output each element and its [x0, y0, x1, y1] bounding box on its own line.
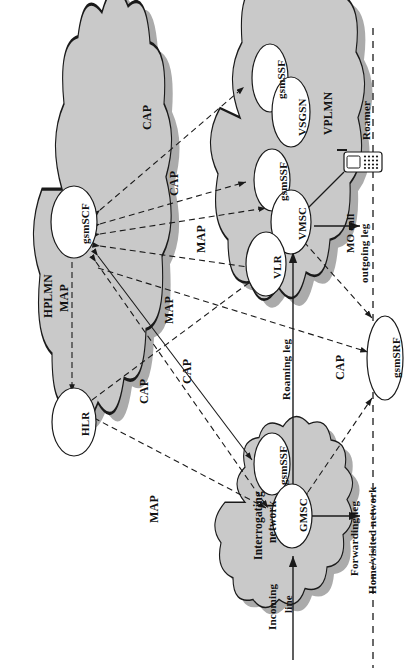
link-map-hlr-gmsc	[94, 418, 266, 508]
leg-label-mo-call-line2: outgoing leg	[358, 223, 370, 283]
link-label-map-centre: MAP	[162, 296, 177, 324]
leg-label-incoming-line2: line	[282, 595, 294, 613]
annotation-roamer: Roamer	[360, 101, 372, 140]
cloud-label-hplmn: HPLMN	[42, 274, 54, 318]
leg-label-mo-call-line1: MO call	[344, 213, 356, 253]
mobile-phone-icon	[337, 150, 382, 172]
link-label-cap-centre: CAP	[137, 379, 152, 404]
leg-label-forwarding: Forwarding leg	[348, 501, 360, 576]
node-label-gsmsrf: gsmSRF	[390, 337, 402, 378]
cloud-label-interrogating-network-line2: network	[266, 501, 278, 543]
node-label-gsmssf-vmsc: gsmSSF	[277, 162, 289, 201]
node-label-gsmssf-gmsc: gsmSSF	[277, 446, 289, 485]
annotation-home-visited-network: Home/visited network	[366, 486, 378, 594]
node-label-gsmscf: gsmSCF	[79, 203, 91, 244]
link-label-map-gsmscf-hlr: MAP	[57, 284, 72, 312]
link-label-cap-vsgsn: CAP	[140, 105, 155, 130]
link-label-cap-gsmsrf: CAP	[333, 355, 348, 380]
leg-label-roaming: Roaming leg	[280, 339, 292, 400]
node-label-vlr: VLR	[271, 255, 283, 279]
link-label-map-hlr-gmsc: MAP	[147, 495, 162, 523]
cloud-label-vplmn: VPLMN	[322, 92, 334, 135]
node-label-gsmssf-vsgsn: gsmSSF	[275, 60, 287, 99]
diagram-canvas: gsmSSF VSGSN gsmSSF VMSC VLR gsmSCF HLR …	[0, 0, 415, 671]
node-label-gmsc: GMSC	[297, 498, 309, 532]
link-label-cap-lower: CAP	[180, 359, 195, 384]
node-label-hlr: HLR	[79, 412, 91, 436]
node-label-vmsc: VMSC	[296, 207, 308, 240]
node-label-vsgsn: VSGSN	[296, 98, 308, 136]
link-label-cap-vmsc-ssf: CAP	[167, 171, 182, 196]
link-label-map-vlr: MAP	[194, 225, 209, 253]
cloud-label-interrogating-network-line1: Interrogating	[252, 491, 264, 560]
leg-label-incoming-line1: Incoming	[266, 584, 278, 630]
